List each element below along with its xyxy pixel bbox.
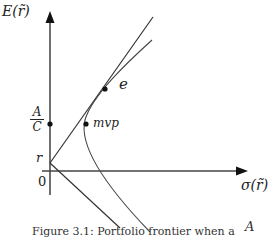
frontier-hyperbola (84, 40, 152, 232)
point-a-over-c (47, 121, 52, 126)
point-e (102, 86, 107, 91)
point-mvp (83, 121, 88, 126)
risk-free-label: r (36, 151, 42, 164)
y-axis-label: E(r̃) (2, 4, 30, 18)
a-over-c-label: A C (30, 106, 44, 133)
point-mvp-label: mvp (93, 117, 119, 129)
x-axis-arrowhead-icon (236, 167, 248, 176)
x-axis-label: σ(r̃) (241, 178, 268, 192)
figure-caption: Figure 3.1: Portfolio frontier when a (32, 225, 235, 238)
figure-caption-tail: A (245, 219, 254, 234)
origin-label: 0 (38, 175, 46, 188)
lower-line (50, 163, 120, 228)
y-axis-arrowhead-icon (46, 11, 55, 23)
upper-tangent-line (50, 17, 153, 163)
fraction-numerator: A (30, 106, 44, 119)
fraction-denominator: C (30, 120, 44, 133)
point-e-label: e (119, 77, 128, 92)
